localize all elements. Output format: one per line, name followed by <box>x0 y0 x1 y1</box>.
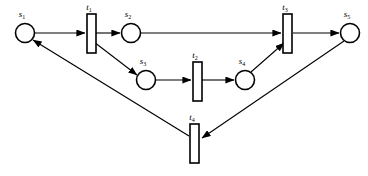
place-label-s4: s4 <box>239 56 246 67</box>
place-label-s1: s1 <box>19 9 26 20</box>
transition-label-sub-t3: 3 <box>285 7 288 13</box>
arcs-layer <box>33 33 344 138</box>
transition-label-t1: t1 <box>86 2 92 13</box>
place-label-sub-s2: 2 <box>128 14 131 20</box>
labels-layer: t1t2t3t4s1s2s3s4s5 <box>19 2 351 123</box>
arc-s5-to-t4 <box>202 41 344 138</box>
arc-t1-to-s3 <box>94 42 137 75</box>
transition-label-t2: t2 <box>192 50 198 61</box>
place-label-sub-s1: 1 <box>22 14 25 20</box>
transition-label-sub-t2: 2 <box>195 55 198 61</box>
transition-t3[interactable] <box>283 14 292 53</box>
petri-net-canvas: t1t2t3t4s1s2s3s4s5 <box>0 0 368 176</box>
transition-label-t4: t4 <box>189 112 195 123</box>
transition-label-sub-t4: 4 <box>192 117 195 123</box>
transition-t2[interactable] <box>193 62 202 101</box>
place-s4[interactable] <box>236 71 255 90</box>
transition-label-t3: t3 <box>282 2 288 13</box>
transition-label-sub-t1: 1 <box>89 7 92 13</box>
place-s5[interactable] <box>341 24 360 43</box>
transition-t1[interactable] <box>87 14 96 53</box>
arc-s4-to-t3 <box>251 43 284 72</box>
place-label-sub-s5: 5 <box>347 14 350 20</box>
place-s3[interactable] <box>137 71 156 90</box>
place-s1[interactable] <box>16 24 35 43</box>
transitions-layer <box>87 14 292 163</box>
place-label-s5: s5 <box>344 9 351 20</box>
place-label-sub-s3: 3 <box>143 61 146 67</box>
place-label-s3: s3 <box>140 56 147 67</box>
place-label-sub-s4: 4 <box>242 61 245 67</box>
place-label-s2: s2 <box>125 9 132 20</box>
place-s2[interactable] <box>122 24 141 43</box>
petri-net-diagram: t1t2t3t4s1s2s3s4s5 <box>0 0 368 176</box>
transition-t4[interactable] <box>190 124 199 163</box>
